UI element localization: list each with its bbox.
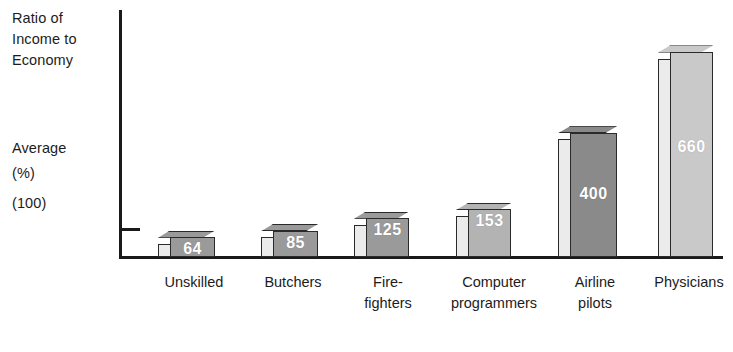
category-label-computerprogrammers: Computer programmers (430, 272, 558, 314)
bar-front-face (670, 52, 713, 257)
y-axis-baseline-tick-label: (100) (12, 193, 46, 214)
bar-front-face (570, 133, 617, 257)
y-axis-tick-100 (121, 228, 140, 231)
bar-front-face (273, 231, 318, 257)
bar-unskilled[interactable]: 64 (170, 237, 215, 257)
category-label-airlinepilots: Airline pilots (553, 272, 637, 314)
category-label-fire-fighters: Fire- fighters (342, 272, 434, 314)
bar-physicians[interactable]: 660 (670, 52, 713, 257)
category-label-physicians: Physicians (645, 272, 733, 293)
category-label-butchers: Butchers (248, 272, 338, 293)
y-axis-percent-label: (%) (12, 163, 35, 184)
category-label-unskilled: Unskilled (148, 272, 240, 293)
bar-front-face (366, 218, 409, 257)
bar-front-face (468, 209, 511, 257)
y-axis-title: Ratio of Income to Economy (12, 8, 77, 71)
y-axis-average-label: Average (12, 138, 66, 159)
bar-fire-fighters[interactable]: 125 (366, 218, 409, 257)
bar-front-face (170, 237, 215, 257)
bar-chart-figure: Ratio of Income to Economy Average (%) (… (0, 0, 733, 352)
y-axis-line (119, 10, 122, 259)
bar-airline-pilots[interactable]: 400 (570, 133, 617, 257)
bar-butchers[interactable]: 85 (273, 231, 318, 257)
bar-computer-programmers[interactable]: 153 (468, 209, 511, 257)
